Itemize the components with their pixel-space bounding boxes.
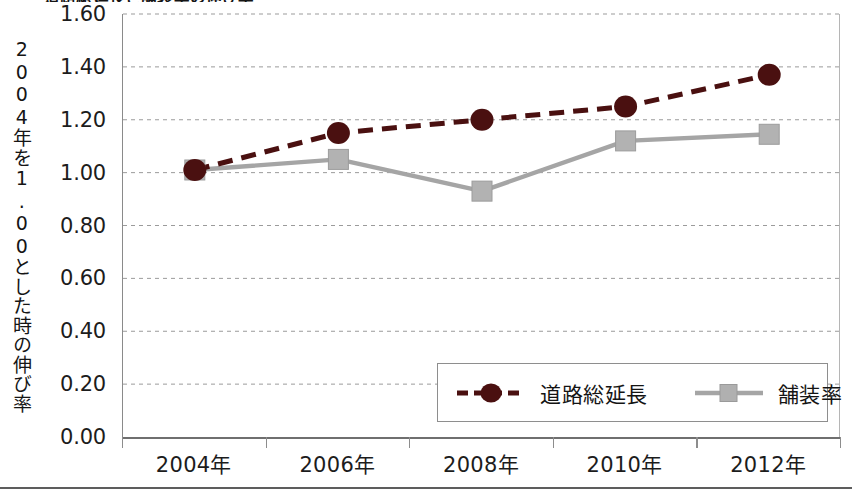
legend-label-pavement-rate: 舗装率 (778, 378, 843, 408)
x-axis-tick (840, 437, 841, 448)
legend-swatch-circle-icon (456, 380, 526, 406)
data-point-square (472, 181, 492, 201)
x-axis-tick-label: 2006年 (299, 448, 375, 478)
y-axis-tick-label: 1.20 (60, 108, 106, 132)
data-point-square (616, 131, 636, 151)
x-axis-tick-labels: 2004年2006年2008年2010年2012年 (0, 448, 852, 488)
chart-title-strip: 道路総延長と舗装率の伸び率 (0, 0, 852, 2)
data-point-circle (471, 109, 494, 131)
y-axis-tick-label: 1.60 (60, 2, 106, 26)
chart-figure: 道路総延長と舗装率の伸び率 2004年を1.00とした時の伸び率 1.601.4… (0, 0, 852, 490)
page-bottom-rule (0, 487, 852, 489)
y-axis-tick-label: 0.20 (60, 372, 106, 396)
x-axis-tick (553, 437, 554, 448)
y-axis-title-text: 2004年を1.00とした時の伸び率 (11, 38, 30, 413)
y-axis-tick-label: 0.60 (60, 266, 106, 290)
legend-item-road-length: 道路総延長 (456, 364, 648, 421)
y-axis-tick-labels: 1.601.401.201.000.800.600.400.200.00 (40, 0, 114, 490)
y-axis-tick-label: 0.40 (60, 319, 106, 343)
x-axis-tick (266, 437, 267, 448)
legend-swatch-square-icon (694, 380, 764, 406)
y-axis-title: 2004年を1.00とした時の伸び率 (6, 16, 36, 434)
x-axis-tick-label: 2004年 (156, 448, 232, 478)
legend-item-pavement-rate: 舗装率 (694, 364, 843, 421)
y-axis-tick-label: 0.00 (60, 425, 106, 449)
x-axis-tick-label: 2008年 (443, 448, 519, 478)
x-axis-tick-label: 2010年 (587, 448, 663, 478)
y-axis-tick-label: 1.00 (60, 161, 106, 185)
data-point-circle (614, 96, 637, 118)
x-axis-tick (122, 437, 123, 448)
x-axis-tick (696, 437, 697, 448)
y-axis-tick-label: 0.80 (60, 214, 106, 238)
y-axis-tick-label: 1.40 (60, 55, 106, 79)
x-axis-tick (409, 437, 410, 448)
data-point-circle (183, 159, 206, 181)
x-axis-tick-label: 2012年 (730, 448, 806, 478)
legend: 道路総延長 舗装率 (437, 363, 828, 422)
data-point-circle (327, 122, 350, 144)
data-point-circle (758, 64, 781, 86)
data-point-square (759, 124, 779, 144)
data-point-square (328, 149, 348, 169)
x-axis-line (122, 437, 841, 439)
legend-label-road-length: 道路総延長 (540, 378, 648, 408)
